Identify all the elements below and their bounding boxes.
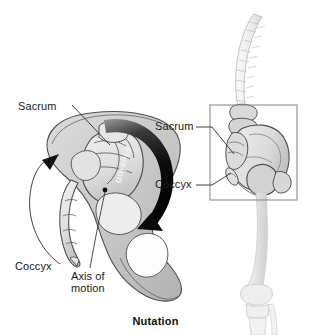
anatomy-illustration [0, 0, 311, 335]
label-sacrum-right: Sacrum [155, 120, 194, 132]
femoral-condyles [241, 284, 273, 305]
spine-outline [236, 14, 262, 109]
label-axis-of-motion-line2: motion [71, 282, 105, 294]
obturator-foramen [126, 233, 168, 277]
right-skeleton-group [196, 14, 297, 335]
axis-of-motion-dot [103, 188, 108, 193]
coccyx-leader-left [30, 158, 60, 264]
greater-trochanter [273, 171, 291, 193]
auricular-surface [71, 151, 100, 181]
spine-column [236, 14, 265, 109]
figure-caption: Nutation [0, 315, 311, 327]
label-coccyx-right: Coccyx [155, 178, 192, 190]
femur-shaft [246, 192, 267, 290]
label-coccyx-left: Coccyx [15, 260, 52, 272]
label-sacrum-left: Sacrum [18, 100, 57, 112]
left-pelvis-group [30, 105, 182, 301]
coccyx-bone [60, 180, 80, 267]
label-axis-of-motion-line1: Axis of [71, 270, 105, 282]
nutation-figure: Sacrum Coccyx Axis of motion Sacrum Cocc… [0, 0, 311, 335]
